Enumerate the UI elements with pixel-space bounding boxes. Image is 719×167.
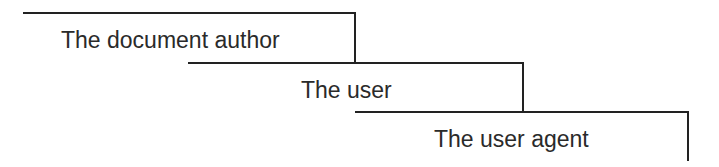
level-2-top-line: [188, 62, 524, 64]
level-3-top-line: [355, 111, 689, 113]
level-3-label: The user agent: [434, 128, 589, 151]
level-2-label: The user: [301, 79, 392, 102]
level-2-right-line: [522, 62, 524, 113]
level-1-right-line: [354, 12, 356, 64]
level-3-right-line: [687, 111, 689, 161]
level-1-label: The document author: [61, 29, 280, 52]
level-1-top-line: [23, 12, 356, 14]
